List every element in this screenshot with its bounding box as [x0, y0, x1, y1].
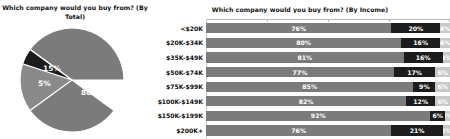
bar-segment-series-3: 2% — [445, 111, 450, 121]
bar-segment-series-1: 81% — [206, 52, 404, 62]
bar-segment-series-2: 17% — [394, 67, 435, 77]
bar-segment-series-1: 85% — [206, 82, 413, 92]
bar-segment-series-1: 82% — [206, 96, 406, 106]
bar-segment-series-3: 6% — [435, 82, 450, 92]
bar-chart-title: Which company would you buy from? (By In… — [150, 6, 450, 13]
bar-segment-series-3: 4% — [440, 38, 450, 48]
bar-row: $200K+76%21%3% — [150, 123, 450, 138]
bar-segment-series-3: 6% — [435, 96, 450, 106]
pie-chart-title: Which company would you buy from? (By To… — [0, 3, 150, 22]
bar-segment-series-2: 21% — [391, 125, 442, 135]
bar-category-label: $50K-$74K — [150, 69, 206, 76]
chart-figure: Which company would you buy from? (By To… — [0, 0, 450, 139]
bar-segment-series-2: 16% — [404, 52, 443, 62]
bar-stack: 82%12%6% — [206, 96, 450, 106]
bar-segment-series-3: 6% — [435, 67, 450, 77]
bar-rows-container: <$20K76%20%4%$20K-$34K80%16%4%$35K-$49K8… — [150, 21, 450, 138]
bar-category-label: $150K-$199K — [150, 112, 206, 119]
bar-stack: 76%21%3% — [206, 125, 450, 135]
bar-stack: 76%20%4% — [206, 23, 450, 33]
bar-category-label: $75K-$99K — [150, 83, 206, 90]
pie-label-15: 15% — [43, 64, 61, 73]
bar-row: $20K-$34K80%16%4% — [150, 36, 450, 51]
pie-svg — [18, 26, 126, 134]
bar-stack: 77%17%6% — [206, 67, 450, 77]
bar-chart-panel: Which company would you buy from? (By In… — [150, 0, 450, 139]
bar-category-label: $20K-$34K — [150, 39, 206, 46]
bar-segment-series-1: 76% — [206, 23, 391, 33]
bar-segment-series-3: 3% — [443, 125, 450, 135]
bar-category-label: $200K+ — [150, 127, 206, 134]
bar-row: $100K-$149K82%12%6% — [150, 94, 450, 109]
pie-label-80: 80% — [81, 88, 99, 97]
bar-category-label: $35K-$49K — [150, 54, 206, 61]
bar-segment-series-2: 6% — [430, 111, 445, 121]
pie-chart-panel: Which company would you buy from? (By To… — [0, 0, 150, 139]
bar-segment-series-1: 92% — [206, 111, 430, 121]
bar-segment-series-2: 12% — [406, 96, 435, 106]
bar-row: $150K-$199K92%6%2% — [150, 109, 450, 124]
pie-chart-graphic: 80% 15% 5% — [18, 26, 126, 134]
bar-segment-series-1: 77% — [206, 67, 394, 77]
bar-category-label: <$20K — [150, 25, 206, 32]
bar-stack: 92%6%2% — [206, 111, 450, 121]
bar-stack: 81%16%3% — [206, 52, 450, 62]
bar-segment-series-3: 4% — [440, 23, 450, 33]
bar-row: $35K-$49K81%16%3% — [150, 50, 450, 65]
bar-row: $75K-$99K85%9%6% — [150, 79, 450, 94]
bar-row: <$20K76%20%4% — [150, 21, 450, 36]
bar-category-label: $100K-$149K — [150, 98, 206, 105]
pie-label-5: 5% — [38, 79, 51, 88]
bar-segment-series-2: 16% — [401, 38, 440, 48]
bar-stack: 80%16%4% — [206, 38, 450, 48]
bar-chart-plot-area: <$20K76%20%4%$20K-$34K80%16%4%$35K-$49K8… — [150, 19, 450, 139]
bar-segment-series-1: 80% — [206, 38, 401, 48]
bar-stack: 85%9%6% — [206, 82, 450, 92]
bar-segment-series-2: 9% — [413, 82, 435, 92]
bar-segment-series-1: 76% — [206, 125, 391, 135]
bar-row: $50K-$74K77%17%6% — [150, 65, 450, 80]
bar-segment-series-2: 20% — [391, 23, 440, 33]
bar-segment-series-3: 3% — [443, 52, 450, 62]
